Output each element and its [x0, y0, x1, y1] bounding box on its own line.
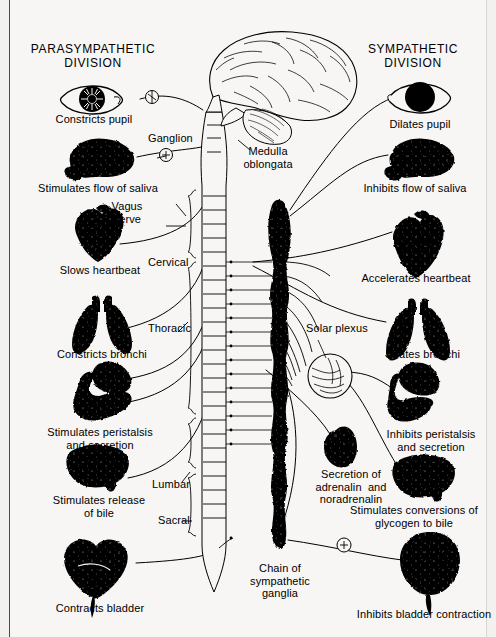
label-region-sacral: Sacral	[158, 514, 190, 527]
nerve-gi-para-1	[120, 300, 210, 380]
label-secretion-adrenalin: Secretion of adrenalin and noradrenalin	[296, 468, 406, 506]
label-inhibits-peristalsis: Inhibits peristalsis and secretion	[368, 428, 494, 453]
label-inhibits-bladder: Inhibits bladder contraction	[352, 608, 496, 621]
label-constricts-pupil: Constricts pupil	[24, 113, 164, 126]
label-contracts-bladder: Contracts bladder	[20, 602, 180, 615]
organ-stomach-intestine-left	[73, 362, 131, 421]
diagram-page: PARASYMPATHETIC DIVISION SYMPATHETIC DIV…	[0, 0, 496, 637]
label-inhibits-saliva: Inhibits flow of saliva	[340, 182, 490, 195]
leader-cervical	[176, 204, 186, 216]
organ-stomach-intestine-right	[387, 362, 439, 421]
label-accelerates-heartbeat: Accelerates heartbeat	[338, 272, 494, 285]
label-solar-plexus: Solar plexus	[306, 322, 368, 335]
organ-salivary-gland-right	[384, 139, 454, 181]
header-sympathetic: SYMPATHETIC DIVISION	[338, 42, 488, 70]
label-ganglion: Ganglion	[148, 132, 193, 145]
label-region-thoracic: Thoracic	[148, 322, 191, 335]
label-dilates-bronchi: Dilates bronchi	[358, 348, 488, 361]
organ-liver-left	[66, 445, 129, 492]
label-constricts-bronchi: Constricts bronchi	[22, 348, 182, 361]
organ-bladder-dilated	[400, 532, 460, 616]
organ-eye-dilated	[388, 82, 451, 113]
label-region-cervical: Cervical	[148, 256, 189, 269]
label-vagus-nerve: Vagus nerve	[100, 200, 154, 225]
label-dilates-pupil: Dilates pupil	[350, 118, 490, 131]
organ-eye-constricted	[61, 86, 123, 114]
label-region-lumbar: Lumbar	[152, 478, 190, 491]
organ-salivary-gland-left	[64, 139, 134, 181]
label-medulla-oblongata: Medulla oblongata	[236, 145, 300, 170]
brace-cervical	[188, 190, 196, 258]
brain	[206, 32, 357, 145]
label-chain-of-ganglia: Chain of sympathetic ganglia	[238, 562, 322, 600]
organ-lungs-left	[72, 296, 132, 354]
label-stimulates-peristalsis: Stimulates peristalsis and secretion	[10, 426, 190, 451]
header-parasympathetic: PARASYMPATHETIC DIVISION	[18, 42, 168, 70]
organ-heart-right	[393, 210, 444, 278]
anatomy-artwork	[0, 0, 496, 637]
label-glycogen-to-bile: Stimulates conversions of glycogen to bi…	[334, 504, 494, 529]
label-stimulates-saliva: Stimulates flow of saliva	[8, 182, 188, 195]
solar-plexus-ganglion	[308, 340, 352, 398]
spinal-cord	[201, 112, 227, 592]
